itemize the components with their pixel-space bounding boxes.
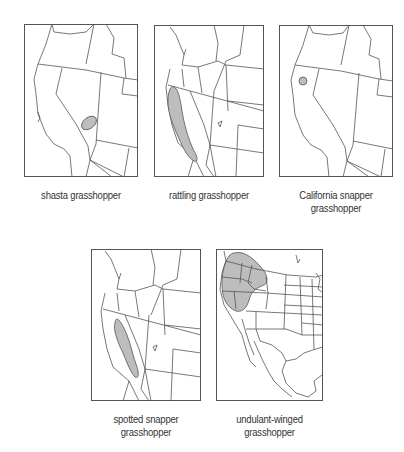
western-us-map	[154, 25, 264, 177]
range-map-california-snapper-grasshopper	[279, 25, 393, 177]
range-map-spotted-snapper-grasshopper	[91, 249, 201, 401]
range-map-shasta-grasshopper	[24, 24, 138, 177]
range-area	[79, 113, 99, 132]
range-map-rattling-grasshopper	[154, 25, 264, 177]
map-caption-california-snapper: California snapper grasshopper	[285, 189, 388, 215]
map-caption-rattling: rattling grasshopper	[160, 189, 259, 202]
map-caption-spotted-snapper: spotted snapper grasshopper	[97, 413, 196, 439]
western-us-map	[91, 249, 201, 401]
western-us-map	[24, 24, 138, 177]
range-area	[114, 319, 138, 377]
map-caption-shasta: shasta grasshopper	[30, 189, 133, 202]
north-america-map	[216, 249, 323, 401]
range-map-undulant-winged-grasshopper	[216, 249, 323, 401]
western-us-map	[279, 25, 393, 177]
map-caption-undulant-winged: undulant-winged grasshopper	[221, 413, 317, 439]
range-area	[299, 77, 307, 85]
